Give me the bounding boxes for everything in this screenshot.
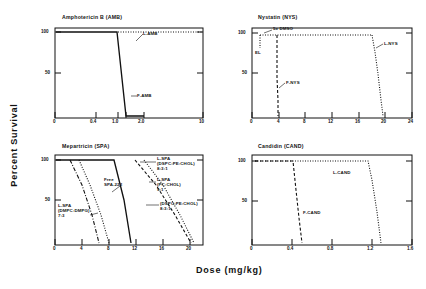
- yticklabel-cand-50: 50: [242, 198, 247, 203]
- curve-f-cand: [255, 161, 302, 243]
- series-label-l-cand: L-CAND: [333, 170, 350, 175]
- series-label-f-cand: F-CAND: [303, 210, 320, 215]
- xticklabel-cand-3: 1.2: [367, 246, 373, 251]
- xticklabel-cand-4: 1.6: [407, 246, 413, 251]
- yticklabel-cand-100: 100: [238, 158, 246, 163]
- plot-cand: [0, 0, 426, 289]
- xticklabel-cand-0: 0: [250, 246, 253, 251]
- figure-root: Percent Survival Dose (mg/kg) Amphoteric…: [0, 0, 426, 289]
- xticklabel-cand-2: 0.8: [327, 246, 333, 251]
- plot-frame-cand: [252, 155, 412, 245]
- curve-l-cand: [255, 161, 381, 243]
- xticklabel-cand-1: 0.4: [287, 246, 293, 251]
